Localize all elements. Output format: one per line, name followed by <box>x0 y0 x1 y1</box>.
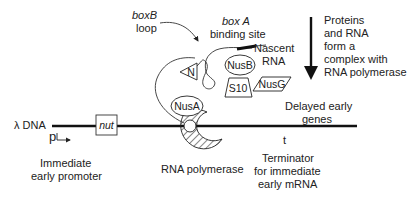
complex-text-line5: RNA polymerase <box>324 66 407 79</box>
lambda-dna-label: λ DNA <box>14 119 46 132</box>
promoter-symbol: p <box>49 130 56 143</box>
complex-text-line2: and RNA <box>324 27 369 40</box>
promoter-label-line2: early promoter <box>31 170 102 183</box>
boxa-label-line2: binding site <box>210 28 266 41</box>
boxb-label-line2: loop <box>136 22 157 35</box>
active-site-circle <box>184 120 196 132</box>
delayed-genes-line1: Delayed early <box>285 100 352 113</box>
nut-site-label: nut <box>99 119 115 131</box>
promoter-arrow-icon <box>57 133 70 140</box>
terminator-label-line3: early mRNA <box>258 178 317 191</box>
complex-text-line4: complex with <box>324 53 388 66</box>
s10-label: S10 <box>229 82 248 94</box>
terminator-symbol: t <box>283 134 286 147</box>
nusb-label: NusB <box>227 59 253 71</box>
boxb-label-line1: boxB <box>132 9 157 22</box>
complex-text-line1: Proteins <box>324 14 364 27</box>
complex-formation-arrow-icon <box>304 66 318 80</box>
nascent-rna-label-line1: Nascent <box>254 42 294 55</box>
complex-text-line3: form a <box>324 40 355 53</box>
nascent-rna-label-line2: RNA <box>262 55 285 68</box>
nusg-label: NusG <box>259 78 286 90</box>
terminator-label-line2: for immediate <box>254 165 321 178</box>
boxa-label-line1: box A <box>222 15 250 28</box>
terminator-label-line1: Terminator <box>262 152 314 165</box>
boxb-pointer-arrow <box>160 22 198 41</box>
nusa-label: NusA <box>174 100 200 112</box>
delayed-genes-line2: genes <box>302 113 332 126</box>
rna-polymerase-label: RNA polymerase <box>161 163 244 176</box>
promoter-label-line1: Immediate <box>40 157 91 170</box>
n-protein-label: N <box>187 66 195 78</box>
